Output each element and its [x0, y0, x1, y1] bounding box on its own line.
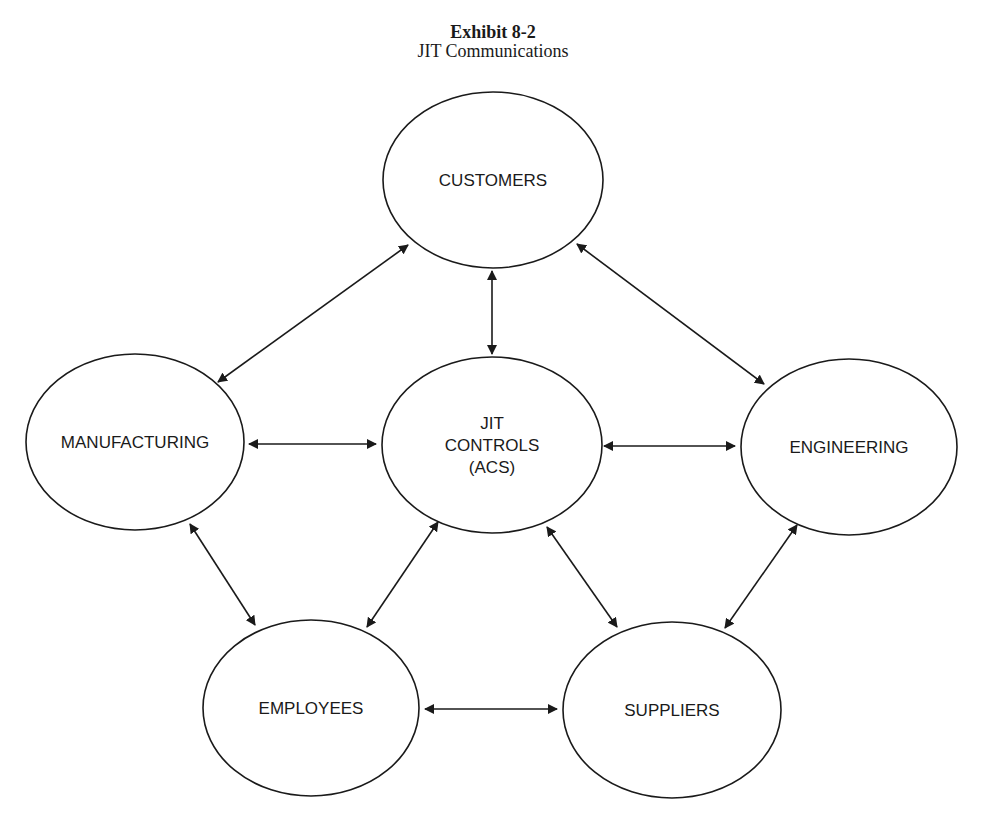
employees-label: EMPLOYEES [259, 699, 364, 718]
nodes-layer: CUSTOMERSMANUFACTURINGJITCONTROLS(ACS)EN… [26, 92, 957, 798]
arrow-manufacturing-customers [218, 245, 408, 382]
node-engineering: ENGINEERING [741, 359, 957, 535]
jit-controls-label: CONTROLS [445, 436, 539, 455]
arrow-jit-controls-employees [367, 522, 438, 627]
manufacturing-label: MANUFACTURING [61, 433, 209, 452]
node-customers: CUSTOMERS [383, 92, 603, 268]
node-employees: EMPLOYEES [203, 620, 419, 796]
node-suppliers: SUPPLIERS [563, 622, 781, 798]
node-jit-controls: JITCONTROLS(ACS) [382, 357, 602, 533]
engineering-label: ENGINEERING [789, 438, 908, 457]
arrow-manufacturing-employees [190, 524, 255, 625]
node-manufacturing: MANUFACTURING [26, 354, 244, 530]
jit-controls-label: JIT [480, 414, 504, 433]
suppliers-label: SUPPLIERS [624, 701, 719, 720]
communications-diagram: CUSTOMERSMANUFACTURINGJITCONTROLS(ACS)EN… [0, 0, 986, 814]
customers-label: CUSTOMERS [439, 171, 547, 190]
arrow-customers-engineering [577, 244, 764, 384]
arrow-engineering-suppliers [725, 525, 797, 628]
arrow-jit-controls-suppliers [547, 527, 617, 627]
jit-controls-label: (ACS) [469, 458, 515, 477]
